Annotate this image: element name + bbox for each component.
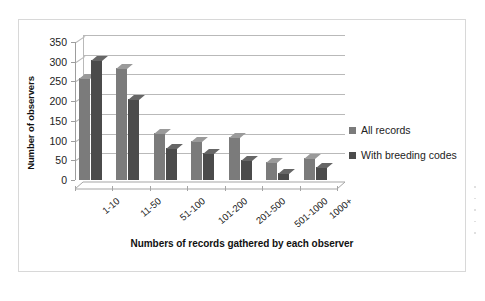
bar [128,99,139,180]
x-axis-tick [187,186,188,191]
bar-top [304,154,321,159]
legend-item-all-records: All records [349,124,461,136]
bar-top [278,169,295,174]
bar [79,78,90,181]
chart-floor [75,180,337,188]
x-axis-category-label: 51-100 [177,195,207,222]
y-axis-tick [71,42,75,43]
bar [304,158,315,180]
bar-face [191,141,202,180]
legend-swatch-icon [349,152,356,159]
y-axis-tick [71,160,75,161]
x-axis-tick [112,186,113,191]
bar-face [166,148,177,180]
bar-face [79,78,90,181]
legend-swatch-icon [349,127,356,134]
y-axis-tick [71,141,75,142]
bar-top [316,163,333,168]
bar [316,167,327,180]
chart-legend: All records With breeding codes [349,124,461,174]
bar-face [316,167,327,180]
bar-group [154,42,191,180]
bar [229,137,240,180]
legend-item-with-breeding-codes: With breeding codes [349,149,461,161]
x-axis-category-label: 201-500 [253,195,287,226]
bar [166,148,177,180]
bar-face [116,68,127,180]
bar [116,68,127,180]
x-axis-category-label: 1-10 [100,195,122,216]
y-axis-tick [71,121,75,122]
bar-face [304,158,315,180]
bar-group [191,42,228,180]
x-axis-tick [337,186,338,191]
y-axis-tick [71,62,75,63]
x-axis-category-label: 501-1000 [292,195,330,229]
y-axis-tick-label: 50 [55,154,67,166]
x-axis-tick [150,186,151,191]
y-axis-tick-label: 200 [49,95,67,107]
bar-group [266,42,303,180]
bar-top [154,129,171,134]
bar-group [229,42,266,180]
x-axis-tick [75,186,76,191]
bar [191,141,202,180]
y-axis-title: Number of observers [25,53,41,193]
y-axis-tick-label: 0 [61,174,67,186]
bar [266,162,277,180]
x-axis-tick [262,186,263,191]
legend-label: With breeding codes [361,149,457,161]
bar-face [241,160,252,180]
chart-figure: Number of observers 05010015020025030035… [18,19,466,272]
y-axis-tick-label: 300 [49,56,67,68]
bar-face [203,153,214,180]
bar-top [191,137,208,142]
bar-top [203,149,220,154]
bar-group [116,42,153,180]
x-axis-category-label: 11-50 [138,195,163,219]
bar-face [154,133,165,180]
bar [203,153,214,180]
x-axis-category-label: 1000+ [326,195,354,221]
x-axis-title: Numbers of records gathered by each obse… [19,238,465,249]
y-axis-tick [71,81,75,82]
bar-top [241,156,258,161]
bar-face [229,137,240,180]
y-axis-tick-label: 100 [49,135,67,147]
bar-group [304,42,341,180]
gridline [83,35,345,36]
bar [154,133,165,180]
bar [278,173,289,180]
bar-face [128,99,139,180]
plot-area: 050100150200250300350 1-1011-5051-100101… [75,42,337,180]
x-axis-tick [300,186,301,191]
bar [91,60,102,180]
bar-top [229,133,246,138]
bar [241,160,252,180]
bar-face [266,162,277,180]
x-axis-tick [225,186,226,191]
bar-top [128,95,145,100]
bar-face [91,60,102,180]
bar-top [266,158,283,163]
y-axis-tick [71,101,75,102]
y-axis-tick-label: 150 [49,115,67,127]
x-axis-category-label: 101-200 [216,195,250,226]
y-axis-tick-label: 350 [49,36,67,48]
y-axis-tick-label: 250 [49,75,67,87]
bar-top [91,56,108,61]
page-edge-artifact [474,186,477,252]
bar-group [79,42,116,180]
legend-label: All records [361,124,411,136]
bar-top [166,144,183,149]
bar-top [116,64,133,69]
